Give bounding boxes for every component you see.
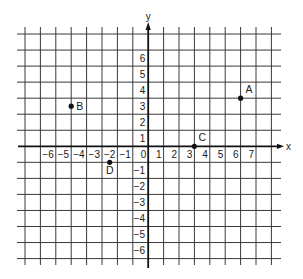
y-tick-label: −5 (134, 229, 146, 240)
y-tick-label: 6 (140, 53, 146, 64)
y-tick-label: 5 (140, 69, 146, 80)
x-tick-label: −2 (104, 149, 116, 160)
coordinate-plane: x y −6−5−4−3−2−101234567 654321−1−2−3−4−… (0, 0, 303, 279)
x-tick-label: 5 (218, 149, 224, 160)
x-tick-label: 3 (187, 149, 193, 160)
x-tick-label: −5 (58, 149, 70, 160)
point-label: C (198, 131, 206, 143)
x-tick-label: −1 (119, 149, 131, 160)
x-tick-label: 7 (248, 149, 254, 160)
x-tick-label: 0 (141, 149, 147, 160)
y-tick-label: −2 (134, 181, 146, 192)
y-tick-label: −4 (134, 213, 146, 224)
y-tick-label: 2 (140, 117, 146, 128)
y-tick-label: 3 (140, 101, 146, 112)
x-tick-label: 4 (202, 149, 208, 160)
point-marker-icon (192, 144, 197, 149)
x-tick-label: −4 (73, 149, 85, 160)
y-tick-label: −3 (134, 197, 146, 208)
x-tick-label: −6 (42, 149, 54, 160)
y-axis-arrow-icon (146, 22, 151, 30)
point-marker-icon (69, 104, 74, 109)
x-axis-arrow-icon (277, 144, 284, 149)
y-axis-label: y (146, 11, 151, 22)
x-tick-label: 6 (233, 149, 239, 160)
axes: x y (18, 11, 291, 268)
x-axis-label: x (286, 141, 291, 152)
point-marker-icon (238, 96, 243, 101)
y-tick-label: −1 (134, 165, 146, 176)
point-label: A (246, 83, 253, 95)
y-tick-label: −6 (134, 245, 146, 256)
y-tick-label: 4 (140, 85, 146, 96)
x-tick-label: −3 (89, 149, 101, 160)
point-label: B (76, 100, 83, 112)
point-label: D (106, 164, 114, 176)
x-tick-label: 1 (156, 149, 162, 160)
x-tick-label: 2 (171, 149, 177, 160)
y-tick-label: 1 (140, 133, 146, 144)
